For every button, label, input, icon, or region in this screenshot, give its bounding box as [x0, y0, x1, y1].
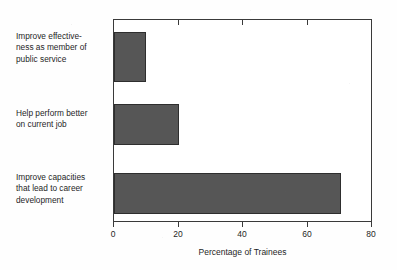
category-label-line: Improve capacities — [16, 172, 110, 183]
category-label-line: Help perform better — [16, 108, 110, 119]
x-tick-label-40: 40 — [237, 229, 246, 239]
category-label-line: ness as member of — [16, 42, 110, 53]
x-tick-0 — [113, 222, 114, 227]
category-label-line: development — [16, 195, 110, 206]
bar-improve-capacities — [114, 173, 341, 214]
x-tick-60 — [307, 222, 308, 227]
x-tick-top-40 — [242, 20, 243, 25]
x-tick-40 — [242, 222, 243, 227]
category-label-line: public service — [16, 54, 110, 65]
x-tick-top-20 — [178, 20, 179, 25]
x-axis-title: Percentage of Trainees — [113, 247, 372, 258]
x-tick-label-0: 0 — [111, 229, 116, 239]
category-label-improve-capacities: Improve capacities that lead to career d… — [16, 172, 110, 206]
x-tick-label-80: 80 — [366, 229, 375, 239]
category-label-improve-effectiveness: Improve effective- ness as member of pub… — [16, 31, 110, 65]
bar-chart-figure: 0 20 40 60 80 Percentage of Trainees Imp… — [0, 0, 397, 270]
x-tick-80 — [371, 222, 372, 227]
category-label-help-perform-better: Help perform better on current job — [16, 108, 110, 131]
category-label-line: that lead to career — [16, 183, 110, 194]
x-tick-20 — [178, 222, 179, 227]
bar-help-perform-better — [114, 104, 179, 145]
x-tick-label-20: 20 — [173, 229, 182, 239]
category-label-line: on current job — [16, 119, 110, 130]
plot-area — [113, 19, 372, 222]
x-tick-label-60: 60 — [302, 229, 311, 239]
x-tick-top-60 — [307, 20, 308, 25]
bar-improve-effectiveness — [114, 32, 146, 82]
category-label-line: Improve effective- — [16, 31, 110, 42]
